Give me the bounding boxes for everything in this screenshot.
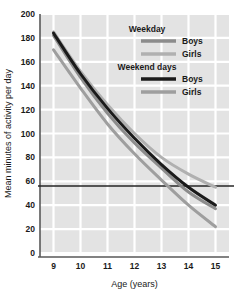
- legend-entry-label: Boys: [182, 74, 203, 84]
- y-tick-label: 180: [21, 33, 35, 43]
- y-tick-label: 20: [26, 224, 36, 234]
- y-tick-label: 140: [21, 81, 35, 91]
- y-tick-label: 120: [21, 105, 35, 115]
- y-tick-label: 40: [26, 200, 36, 210]
- legend-group-header: Weekday: [129, 24, 166, 34]
- x-tick-label: 10: [76, 261, 86, 271]
- legend-entry-label: Girls: [182, 49, 202, 59]
- y-axis-title: Mean minutes of activity per day: [3, 68, 13, 198]
- legend-entry-label: Boys: [182, 36, 203, 46]
- x-tick-label: 14: [184, 261, 194, 271]
- y-tick-label: 160: [21, 57, 35, 67]
- legend-entry-label: Girls: [182, 87, 202, 97]
- y-axis-tick-labels: 020406080100120140160180200: [21, 9, 35, 258]
- x-tick-label: 12: [130, 261, 140, 271]
- y-tick-label: 60: [26, 176, 36, 186]
- y-tick-label: 80: [26, 152, 36, 162]
- x-tick-label: 15: [211, 261, 221, 271]
- x-axis-title: Age (years): [111, 279, 158, 289]
- legend-group-header: Weekend days: [118, 62, 177, 72]
- y-tick-label: 200: [21, 9, 35, 19]
- x-axis-tick-labels: 9101112131415: [51, 261, 220, 271]
- x-tick-label: 13: [157, 261, 167, 271]
- x-tick-label: 9: [51, 261, 56, 271]
- activity-by-age-line-chart: 020406080100120140160180200 910111213141…: [0, 0, 234, 294]
- x-tick-label: 11: [103, 261, 112, 271]
- y-tick-label: 100: [21, 129, 35, 139]
- y-tick-label: 0: [30, 248, 35, 258]
- chart-figure: 020406080100120140160180200 910111213141…: [0, 0, 234, 294]
